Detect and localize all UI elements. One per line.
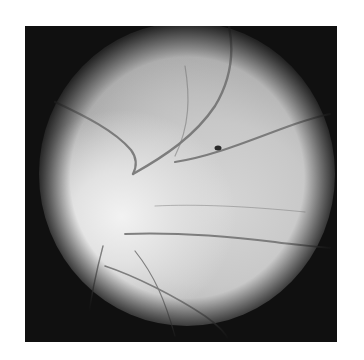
- retinal-vessels: [25, 26, 337, 342]
- dark-spot: [215, 146, 222, 151]
- fundus-image-frame: [25, 26, 337, 342]
